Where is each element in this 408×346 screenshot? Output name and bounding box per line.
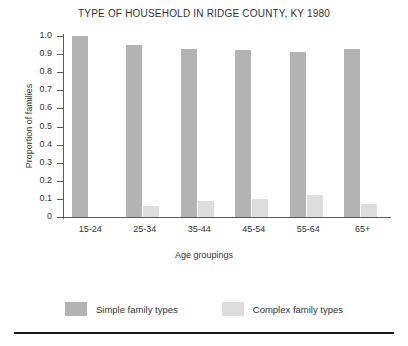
x-tick-label: 65+ <box>336 224 391 234</box>
legend-item: Complex family types <box>222 302 343 316</box>
legend-item: Simple family types <box>65 302 178 316</box>
bar <box>198 201 214 217</box>
x-axis-title: Age groupings <box>0 250 408 260</box>
y-tick-label: 0.8 <box>6 67 52 76</box>
y-tick-label: 0.4 <box>6 140 52 149</box>
y-tick-label: 0.3 <box>6 158 52 167</box>
x-tick-label: 35-44 <box>172 224 227 234</box>
bar <box>344 49 360 217</box>
x-tick-label: 55-64 <box>281 224 336 234</box>
x-tick-label: 25-34 <box>118 224 173 234</box>
bar <box>361 204 377 217</box>
bar <box>307 195 323 217</box>
chart-title: TYPE OF HOUSEHOLD IN RIDGE COUNTY, KY 19… <box>0 8 408 19</box>
y-tick-label: 0.6 <box>6 103 52 112</box>
y-tick-label: 0.5 <box>6 122 52 131</box>
legend-label: Simple family types <box>96 304 178 315</box>
x-tick-label: 45-54 <box>227 224 282 234</box>
y-tick-label: 0.2 <box>6 176 52 185</box>
y-tick-label: 0.1 <box>6 194 52 203</box>
bar <box>143 206 159 217</box>
bar <box>126 45 142 217</box>
plot-area <box>63 36 390 217</box>
y-tick-label: 0.9 <box>6 49 52 58</box>
figure: TYPE OF HOUSEHOLD IN RIDGE COUNTY, KY 19… <box>0 0 408 346</box>
bar <box>290 52 306 217</box>
y-tick-label: 0 <box>6 212 52 221</box>
bar <box>181 49 197 217</box>
legend-label: Complex family types <box>253 304 343 315</box>
legend-swatch-icon <box>222 302 244 316</box>
y-tick <box>57 217 63 218</box>
y-tick-label: 0.7 <box>6 85 52 94</box>
bar <box>72 36 88 217</box>
bar <box>252 199 268 217</box>
footer-rule <box>14 332 394 334</box>
legend-swatch-icon <box>65 302 87 316</box>
x-axis-line <box>62 217 391 218</box>
y-tick-label: 1.0 <box>6 31 52 40</box>
x-tick-label: 15-24 <box>63 224 118 234</box>
bar <box>235 50 251 217</box>
legend: Simple family typesComplex family types <box>0 302 408 316</box>
